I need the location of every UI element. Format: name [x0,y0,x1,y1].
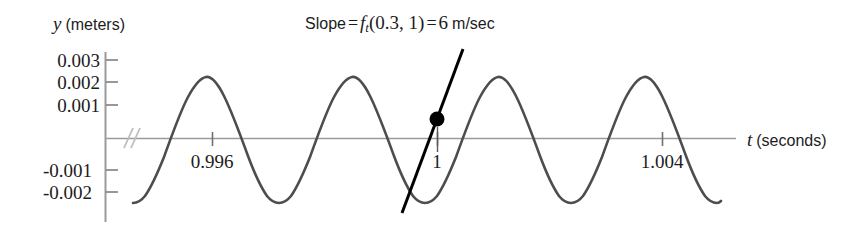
y-tick-label-0001: 0.001 [14,96,100,115]
y-tick-label-neg0002: -0.002 [6,183,92,202]
x-tick-label-0996: 0.996 [162,152,262,171]
x-axis-label: t(seconds) [747,130,827,149]
y-axis-unit: (meters) [65,16,125,33]
slope-keyword: Slope [305,15,346,32]
marked-point-dot [430,112,445,127]
x-axis-symbol: t [747,129,752,150]
slope-function-arguments: (0.3, 1) [369,12,424,33]
sine-wave-curve [133,77,721,203]
slope-value: 6 [439,12,449,33]
y-tick-label-0003: 0.003 [14,51,100,70]
x-tick-label-1004: 1.004 [612,152,712,171]
tangent-line [402,49,463,213]
y-axis-ticks [106,60,118,192]
slope-equals-first: = [346,13,360,33]
y-axis-symbol: y [53,13,61,34]
y-tick-label-0002: 0.002 [14,73,100,92]
x-axis-unit: (seconds) [756,132,826,149]
y-tick-label-neg0001: -0.001 [6,161,92,180]
y-axis-label: y(meters) [53,14,125,33]
x-tick-label-1: 1 [412,152,462,171]
slope-equals-second: = [424,13,438,33]
slope-value-units: m/sec [452,15,495,32]
slope-annotation: Slope=ft(0.3, 1)=6m/sec [305,13,495,34]
plot-canvas [0,0,842,229]
sine-wave-tangent-figure: y(meters) t(seconds) 0.003 0.002 0.001 -… [0,0,842,229]
